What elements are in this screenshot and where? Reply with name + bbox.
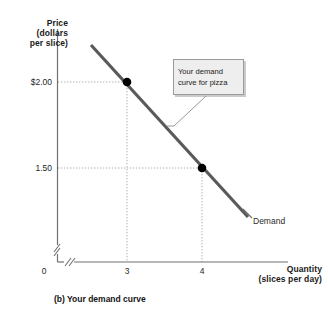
y-axis-title: Price (dollars per slice) xyxy=(4,18,68,48)
x-tick-label-3: 3 xyxy=(113,266,141,276)
y-tick-label-200: $2.00 xyxy=(12,77,52,87)
x-tick-label-4: 4 xyxy=(188,266,216,276)
callout-box: Your demand curve for pizza xyxy=(173,59,244,95)
guide-lines xyxy=(58,82,202,262)
data-point-q3-p200 xyxy=(123,78,132,87)
y-tick-label-150: 1.50 xyxy=(12,163,52,173)
x-axis-break-icon xyxy=(65,258,75,266)
callout-leader-line xyxy=(167,96,206,126)
callout-text: Your demand curve for pizza xyxy=(174,66,227,88)
figure-caption: (b) Your demand curve xyxy=(54,294,146,304)
data-point-q4-p150 xyxy=(198,164,207,173)
origin-label: 0 xyxy=(34,266,54,276)
demand-curve-figure: Your demand curve for pizza Price (dolla… xyxy=(0,0,328,317)
axes xyxy=(54,29,288,266)
demand-series-label: Demand xyxy=(253,216,285,226)
